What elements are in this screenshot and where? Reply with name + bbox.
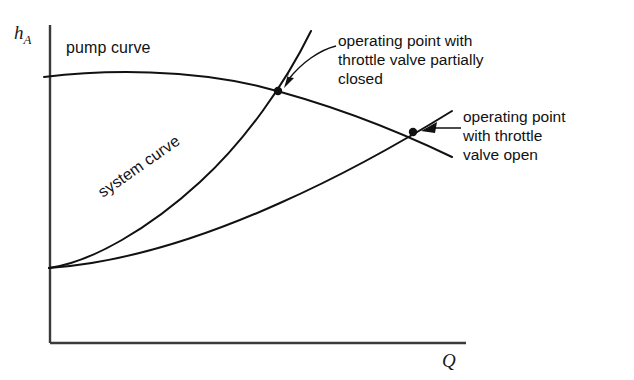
pump-system-curve-figure: hA Q pump curve system curve operating p…	[0, 0, 634, 380]
y-axis-label: hA	[14, 22, 31, 48]
callout-open-line-1: operating point	[463, 107, 566, 126]
callout-operating-point-throttled: operating point with throttle valve part…	[338, 31, 484, 88]
operating-point-open-marker	[409, 128, 417, 136]
callout-throttled-line-2: throttle valve partially	[338, 50, 484, 69]
x-axis-label: Q	[442, 350, 456, 372]
callout-open-line-3: valve open	[463, 145, 566, 164]
system-curve-throttled-line	[49, 31, 311, 268]
y-axis-label-subscript: A	[24, 32, 32, 47]
y-axis-label-text: h	[14, 22, 24, 43]
callout-throttled-line-3: closed	[338, 69, 484, 88]
plot-canvas	[0, 0, 634, 380]
callout-throttled-line-1: operating point with	[338, 31, 484, 50]
leader-line-throttled	[288, 46, 336, 80]
callout-operating-point-open: operating point with throttle valve open	[463, 107, 566, 164]
operating-point-throttled-marker	[274, 87, 282, 95]
pump-curve-label: pump curve	[66, 39, 151, 57]
callout-open-line-2: with throttle	[463, 126, 566, 145]
